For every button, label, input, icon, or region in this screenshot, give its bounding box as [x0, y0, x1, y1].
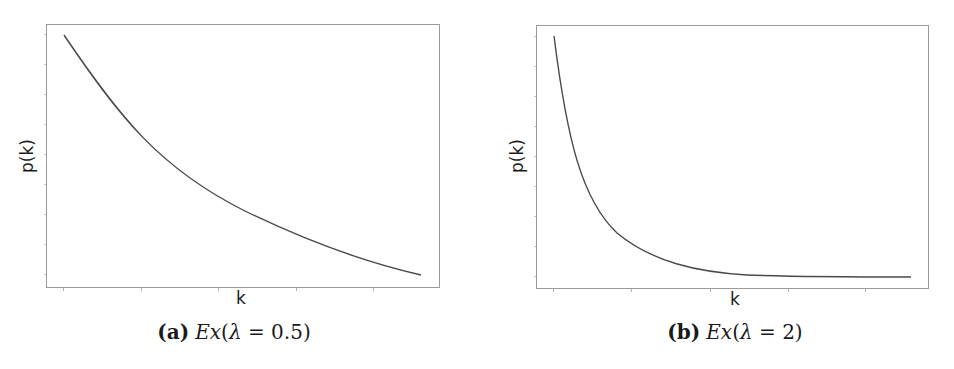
caption-lambda-value: 2 [782, 320, 795, 344]
caption-paren-close: ) [795, 320, 803, 344]
plot-a [0, 0, 477, 369]
caption-lambda-value: 0.5 [271, 320, 303, 344]
x-ticks [64, 288, 374, 291]
curve-ex-lambda-0.5 [64, 35, 421, 275]
caption-dist: Ex [706, 320, 732, 344]
y-axis-label: p(k) [507, 131, 527, 181]
x-axis-label: k [720, 289, 750, 309]
plot-frame [47, 25, 440, 288]
x-ticks [554, 289, 866, 292]
caption-lambda: λ [740, 320, 753, 344]
caption-b: (b)Ex(λ = 2) [585, 320, 885, 344]
y-ticks [534, 37, 536, 277]
caption-lambda: λ [229, 320, 242, 344]
x-axis-label: k [226, 288, 256, 308]
plot-b [477, 0, 954, 369]
caption-tag: (a) [157, 320, 189, 344]
caption-paren-open: ( [221, 320, 229, 344]
caption-tag: (b) [667, 320, 700, 344]
curve-ex-lambda-2 [554, 36, 911, 277]
y-ticks [44, 35, 46, 275]
caption-equals: = [753, 320, 782, 344]
caption-dist: Ex [195, 320, 221, 344]
caption-paren-close: ) [303, 320, 311, 344]
panel-b: p(k) k (b)Ex(λ = 2) [477, 0, 954, 369]
y-axis-label: p(k) [17, 131, 37, 181]
caption-a: (a)Ex(λ = 0.5) [84, 320, 384, 344]
caption-equals: = [242, 320, 271, 344]
plot-frame [537, 26, 929, 289]
panel-a: p(k) k (a)Ex(λ = 0.5) [0, 0, 477, 369]
caption-paren-open: ( [732, 320, 740, 344]
